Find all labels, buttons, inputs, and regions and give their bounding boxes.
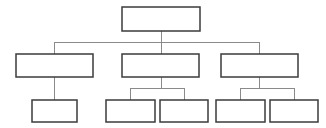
node-branch-3[interactable] — [221, 54, 298, 77]
node-box-leaf-5[interactable] — [270, 100, 318, 122]
node-box-leaf-2[interactable] — [106, 100, 155, 122]
node-leaf-2[interactable] — [106, 100, 155, 122]
node-branch-2[interactable] — [122, 54, 199, 77]
node-layer — [16, 7, 318, 122]
node-leaf-1[interactable] — [32, 100, 77, 122]
node-box-branch-1[interactable] — [16, 54, 93, 77]
node-box-leaf-3[interactable] — [160, 100, 208, 122]
node-leaf-5[interactable] — [270, 100, 318, 122]
node-box-leaf-4[interactable] — [216, 100, 265, 122]
org-chart-canvas — [0, 0, 326, 128]
node-branch-1[interactable] — [16, 54, 93, 77]
node-leaf-3[interactable] — [160, 100, 208, 122]
node-box-branch-3[interactable] — [221, 54, 298, 77]
node-box-leaf-1[interactable] — [32, 100, 77, 122]
node-box-root[interactable] — [122, 7, 200, 31]
node-leaf-4[interactable] — [216, 100, 265, 122]
org-chart-diagram — [0, 0, 326, 128]
node-box-branch-2[interactable] — [122, 54, 199, 77]
node-root[interactable] — [122, 7, 200, 31]
